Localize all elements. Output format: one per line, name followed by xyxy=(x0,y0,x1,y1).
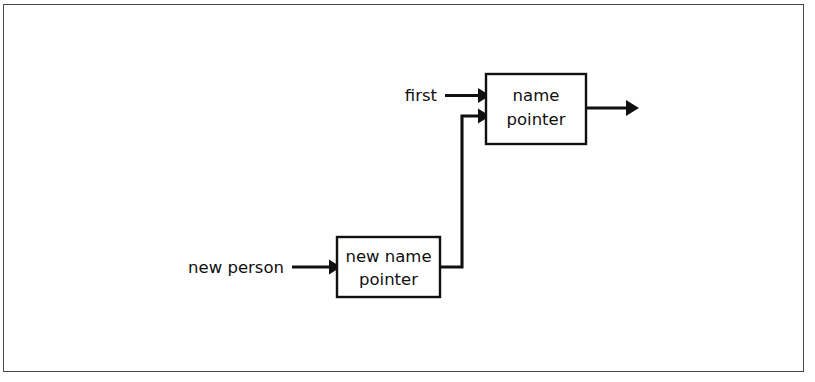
first-label: first xyxy=(405,86,438,105)
next-arrowhead xyxy=(626,100,639,116)
name-pointer-box-line2: pointer xyxy=(506,110,565,129)
name-pointer-box-line1: name xyxy=(513,86,560,105)
link-arrow xyxy=(440,109,490,268)
name-pointer-box-shape xyxy=(486,74,586,144)
new-name-pointer-box-line1: new name xyxy=(345,247,431,266)
next-node-arrow xyxy=(586,100,639,116)
first-pointer-arrow xyxy=(445,88,490,103)
pointer-diagram: name pointer new name pointer first new … xyxy=(0,0,815,382)
figure-canvas: name pointer new name pointer first new … xyxy=(0,0,815,382)
new-name-pointer-box[interactable]: new name pointer xyxy=(337,237,440,297)
new-name-pointer-box-line2: pointer xyxy=(359,270,418,289)
new-person-pointer-arrow xyxy=(292,260,341,275)
new-person-label: new person xyxy=(188,258,284,277)
name-pointer-box[interactable]: name pointer xyxy=(486,74,586,144)
